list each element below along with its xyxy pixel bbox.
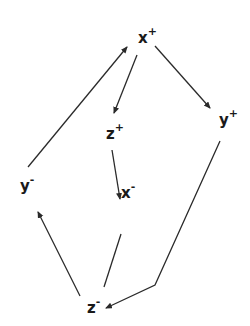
graph-canvas [0, 0, 250, 326]
node-y-plus: y+ [219, 110, 238, 128]
node-y-minus: y- [20, 176, 34, 194]
node-label-base: z [106, 125, 115, 143]
node-x-plus: x+ [138, 28, 157, 46]
edge-y-minus-to-x-plus [28, 47, 127, 167]
node-label-sign: + [115, 121, 124, 134]
edge-z-plus-to-x-minus [112, 150, 120, 199]
edge-z-minus-to-y-minus [38, 212, 80, 296]
node-label-sign: - [30, 173, 35, 186]
edge-x-plus-to-y-plus [155, 46, 210, 108]
node-label-sign: - [96, 295, 101, 308]
node-x-minus: x- [121, 183, 135, 201]
node-label-sign: + [229, 107, 238, 120]
node-label-base: x [138, 29, 148, 47]
edge-x-minus-to-z-minus [104, 234, 121, 287]
node-label-base: z [87, 299, 96, 317]
node-label-sign: + [148, 25, 157, 38]
node-label-base: x [121, 184, 131, 202]
edge-y-plus-to-z-minus [106, 141, 220, 308]
node-label-base: y [219, 111, 229, 129]
edge-x-plus-to-z-plus [114, 55, 137, 113]
node-z-plus: z+ [106, 124, 124, 142]
node-z-minus: z- [87, 298, 100, 316]
node-label-sign: - [131, 180, 136, 193]
node-label-base: y [20, 177, 30, 195]
